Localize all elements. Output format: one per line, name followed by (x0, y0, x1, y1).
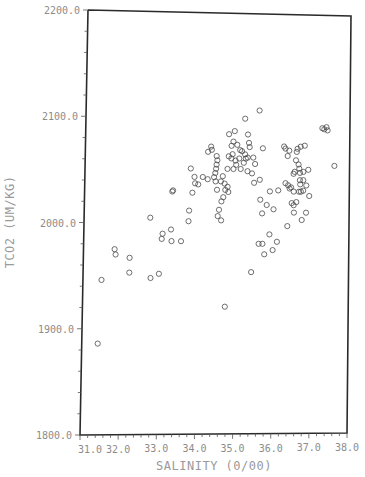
data-point (231, 166, 236, 171)
data-point (200, 174, 205, 179)
x-tick-label: 35.0 (221, 443, 245, 454)
data-point (225, 166, 230, 171)
data-point (253, 161, 258, 166)
data-point (325, 128, 330, 133)
data-point (235, 142, 240, 147)
data-point (291, 210, 296, 215)
y-tick-label: 2100.0 (42, 111, 78, 122)
data-point (159, 236, 164, 241)
data-point (187, 208, 192, 213)
data-point (186, 219, 191, 224)
data-point (160, 231, 165, 236)
data-point (190, 190, 195, 195)
data-point (156, 271, 161, 276)
data-point (276, 188, 281, 193)
y-axis: 1800.01900.02000.02100.02200.0 (36, 5, 88, 441)
data-point (294, 149, 299, 154)
x-tick-label: 33.0 (144, 443, 168, 454)
data-point (196, 182, 201, 187)
x-axis: 31.032.033.034.035.036.037.038.0 (78, 433, 359, 455)
data-point (169, 239, 174, 244)
y-axis-title: TCO2 (UM/KG) (3, 176, 17, 269)
scatter-chart: 1800.01900.02000.02100.02200.0 31.032.03… (0, 0, 365, 477)
data-point (243, 116, 248, 121)
data-point (227, 132, 232, 137)
data-point (240, 149, 245, 154)
x-tick-label: 37.0 (297, 442, 321, 453)
y-tick-label: 2000.0 (40, 218, 76, 229)
data-point (285, 224, 290, 229)
data-point (257, 177, 262, 182)
data-point (238, 166, 243, 171)
data-point (222, 304, 227, 309)
data-point (245, 132, 250, 137)
data-point (262, 252, 267, 257)
data-point (249, 270, 254, 275)
data-point (257, 108, 262, 113)
data-point (219, 218, 224, 223)
data-point (267, 232, 272, 237)
data-point (127, 270, 132, 275)
data-point (193, 181, 198, 186)
data-point (303, 210, 308, 215)
data-point (271, 207, 276, 212)
data-point (260, 241, 265, 246)
data-point (304, 183, 309, 188)
data-point (264, 202, 269, 207)
data-point (299, 217, 304, 222)
data-point (192, 174, 197, 179)
x-tick-label: 36.0 (259, 443, 283, 454)
data-point (260, 146, 265, 151)
data-point (258, 197, 263, 202)
data-point (274, 239, 279, 244)
data-point (249, 171, 254, 176)
data-point (178, 239, 183, 244)
data-point (252, 180, 257, 185)
y-tick-label: 1900.0 (38, 324, 74, 335)
data-point (291, 189, 296, 194)
plot-frame (80, 10, 351, 435)
data-point (260, 211, 265, 216)
data-point (188, 166, 193, 171)
data-point (220, 174, 225, 179)
x-tick-label: 31.0 (78, 444, 102, 455)
y-tick-label: 1800.0 (36, 430, 72, 441)
data-point (205, 177, 210, 182)
data-point (168, 227, 173, 232)
data-point (306, 167, 311, 172)
data-point (307, 193, 312, 198)
data-point (112, 247, 117, 252)
x-tick-label: 34.0 (182, 443, 206, 454)
data-point (332, 163, 337, 168)
x-tick-label: 32.0 (106, 444, 130, 455)
data-point (113, 252, 118, 257)
data-point (216, 207, 221, 212)
x-tick-label: 38.0 (335, 442, 359, 453)
data-point (219, 199, 224, 204)
data-point (241, 160, 246, 165)
data-point (148, 275, 153, 280)
data-point (95, 341, 100, 346)
data-point (267, 189, 272, 194)
data-point (232, 129, 237, 134)
data-point (148, 215, 153, 220)
y-tick-label: 2200.0 (44, 5, 80, 16)
data-point (214, 187, 219, 192)
data-points (95, 108, 337, 346)
plot-border (80, 10, 351, 435)
data-point (285, 153, 290, 158)
data-point (251, 155, 256, 160)
data-point (270, 248, 275, 253)
data-point (99, 277, 104, 282)
x-axis-title: SALINITY (0/00) (156, 459, 272, 473)
data-point (301, 169, 306, 174)
data-point (127, 255, 132, 260)
